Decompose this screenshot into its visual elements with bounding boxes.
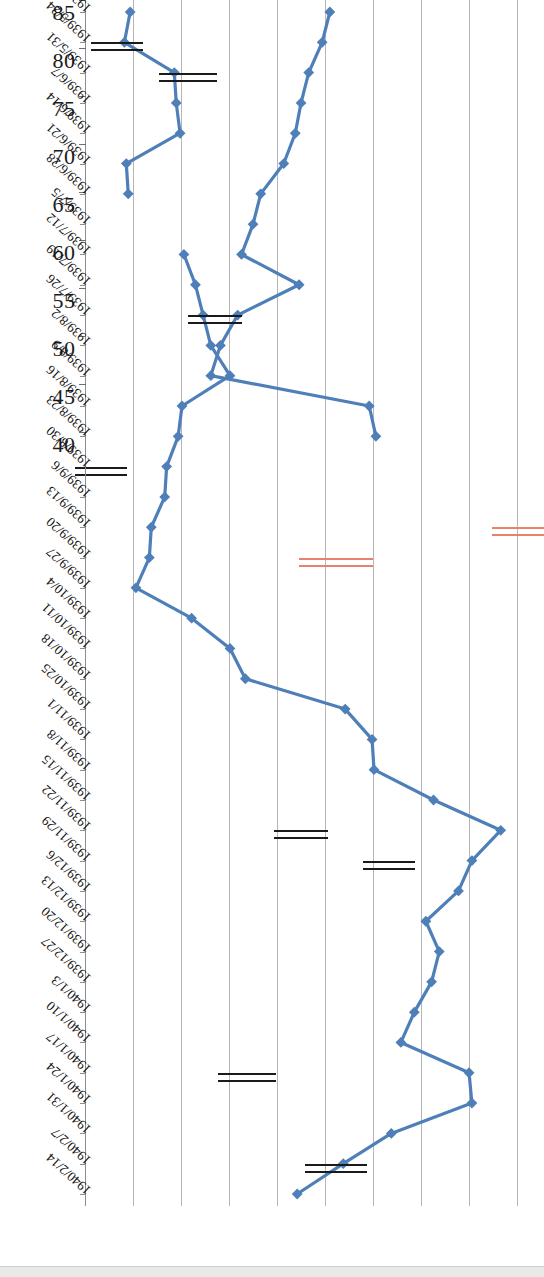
rotated-chart-canvas: 85807570656055504540 1939/5/171939/5/241…: [0, 0, 524, 1240]
page-edge-strip: [0, 1266, 544, 1277]
date-axis: 1939/5/171939/5/241939/5/311939/6/71939/…: [92, 0, 524, 1206]
